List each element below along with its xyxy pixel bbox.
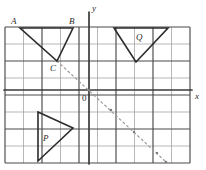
- origin-label: 0: [82, 94, 87, 103]
- dashed-line-marker: [165, 161, 167, 163]
- coordinate-plane: [0, 0, 206, 170]
- coordinate-figure: y x 0 A B C Q P: [0, 0, 206, 170]
- y-axis-label: y: [92, 4, 96, 13]
- dashed-line-marker: [156, 152, 158, 154]
- axes: [4, 12, 192, 164]
- vertex-label-a: A: [11, 17, 17, 26]
- vertex-label-b: B: [69, 17, 75, 26]
- dashed-line-marker: [133, 131, 135, 133]
- shape-label-q: Q: [136, 33, 143, 42]
- dashed-line-marker: [88, 89, 90, 91]
- dashed-construction-line: [57, 61, 166, 162]
- triangle-abc: [20, 28, 73, 61]
- shape-label-p: P: [43, 134, 49, 143]
- dashed-line-marker: [110, 109, 112, 111]
- construction-line: [56, 60, 167, 163]
- x-axis-label: x: [195, 92, 199, 101]
- vertex-label-c: C: [50, 64, 56, 73]
